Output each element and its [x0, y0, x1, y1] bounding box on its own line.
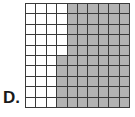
shaded-cell [88, 56, 98, 66]
option-label: D. [3, 88, 20, 108]
unshaded-cell [36, 56, 46, 66]
shaded-cell [78, 25, 88, 35]
shaded-cell [120, 35, 130, 45]
unshaded-cell [36, 14, 46, 24]
unshaded-cell [36, 46, 46, 56]
shaded-cell [99, 66, 109, 76]
unshaded-cell [36, 35, 46, 45]
shaded-cell [109, 87, 119, 97]
shaded-cell [120, 14, 130, 24]
unshaded-cell [57, 35, 67, 45]
shaded-cell [68, 77, 78, 87]
unshaded-cell [26, 46, 36, 56]
unshaded-cell [36, 4, 46, 14]
shaded-cell [120, 87, 130, 97]
unshaded-cell [47, 66, 57, 76]
shaded-cell [78, 77, 88, 87]
shaded-cell [109, 25, 119, 35]
shaded-cell [88, 25, 98, 35]
unshaded-cell [36, 87, 46, 97]
shaded-cell [78, 35, 88, 45]
shaded-cell [99, 25, 109, 35]
shaded-cell [99, 35, 109, 45]
unshaded-cell [26, 66, 36, 76]
unshaded-cell [57, 4, 67, 14]
shaded-cell [120, 56, 130, 66]
shaded-cell [99, 77, 109, 87]
unshaded-cell [36, 77, 46, 87]
shaded-cell [57, 56, 67, 66]
shaded-cell [88, 46, 98, 56]
unshaded-cell [26, 35, 36, 45]
unshaded-cell [47, 98, 57, 108]
shaded-cell [88, 77, 98, 87]
shaded-cell [99, 56, 109, 66]
shaded-cell [68, 56, 78, 66]
shaded-cell [88, 66, 98, 76]
shaded-cell [78, 4, 88, 14]
shaded-cell [109, 46, 119, 56]
unshaded-cell [47, 87, 57, 97]
shaded-cell [88, 35, 98, 45]
shaded-cell [120, 77, 130, 87]
shaded-cell [120, 46, 130, 56]
shaded-cell [120, 4, 130, 14]
shaded-cell [99, 46, 109, 56]
shaded-cell [120, 25, 130, 35]
unshaded-cell [47, 35, 57, 45]
unshaded-cell [26, 77, 36, 87]
shaded-cell [88, 87, 98, 97]
shaded-cell [68, 87, 78, 97]
unshaded-cell [47, 77, 57, 87]
shaded-cell [57, 87, 67, 97]
unshaded-cell [47, 46, 57, 56]
unshaded-cell [47, 25, 57, 35]
shaded-cell [68, 98, 78, 108]
shaded-cell [109, 98, 119, 108]
shaded-cell [57, 98, 67, 108]
unshaded-cell [36, 98, 46, 108]
shaded-cell [68, 14, 78, 24]
unshaded-cell [57, 14, 67, 24]
shaded-cell [99, 14, 109, 24]
shaded-cell [109, 77, 119, 87]
shaded-cell [88, 98, 98, 108]
shaded-cell [68, 25, 78, 35]
unshaded-cell [47, 4, 57, 14]
shaded-cell [68, 46, 78, 56]
shaded-cell [109, 56, 119, 66]
unshaded-cell [26, 87, 36, 97]
shaded-cell [78, 46, 88, 56]
shaded-cell [99, 98, 109, 108]
shaded-cell [78, 14, 88, 24]
unshaded-cell [26, 98, 36, 108]
unshaded-cell [57, 25, 67, 35]
hundred-grid [25, 3, 130, 108]
shaded-cell [78, 98, 88, 108]
shaded-cell [99, 87, 109, 97]
unshaded-cell [36, 25, 46, 35]
shaded-cell [88, 4, 98, 14]
unshaded-cell [47, 56, 57, 66]
shaded-cell [120, 98, 130, 108]
shaded-cell [57, 66, 67, 76]
shaded-cell [68, 66, 78, 76]
unshaded-cell [47, 14, 57, 24]
shaded-cell [109, 14, 119, 24]
unshaded-cell [57, 46, 67, 56]
shaded-cell [120, 66, 130, 76]
shaded-cell [109, 35, 119, 45]
unshaded-cell [26, 56, 36, 66]
shaded-cell [68, 4, 78, 14]
unshaded-cell [36, 66, 46, 76]
unshaded-cell [26, 4, 36, 14]
shaded-cell [99, 4, 109, 14]
shaded-cell [109, 4, 119, 14]
unshaded-cell [26, 14, 36, 24]
shaded-cell [78, 56, 88, 66]
shaded-cell [78, 66, 88, 76]
shaded-cell [109, 66, 119, 76]
shaded-cell [57, 77, 67, 87]
shaded-cell [68, 35, 78, 45]
unshaded-cell [26, 25, 36, 35]
